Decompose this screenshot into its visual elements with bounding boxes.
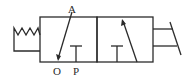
port-label-o: O [53, 65, 61, 77]
flow-arrow-a-to-o [56, 12, 72, 61]
blocked-port-o-icon [111, 46, 123, 62]
blocked-port-p-icon [70, 46, 82, 62]
spring-icon [14, 28, 40, 51]
actuator-icon [153, 22, 181, 55]
port-label-a: A [68, 3, 76, 15]
flow-arrow-p-to-a [121, 19, 137, 62]
port-label-p: P [73, 65, 79, 77]
valve-diagram: A O P [0, 0, 188, 81]
